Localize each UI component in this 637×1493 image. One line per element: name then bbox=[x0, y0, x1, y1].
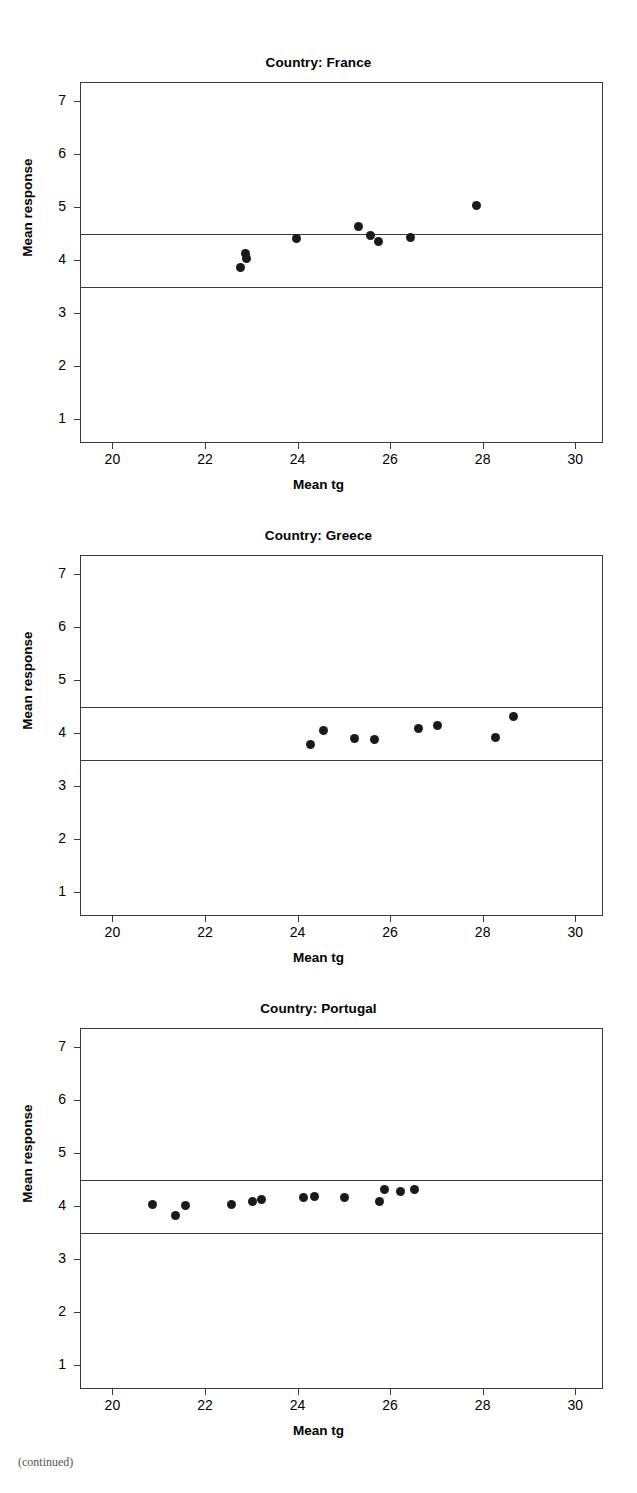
panel-title: Country: Greece bbox=[0, 528, 637, 543]
y-axis-tick-label: 1 bbox=[44, 884, 66, 898]
x-axis-tick bbox=[298, 443, 299, 449]
x-axis-tick bbox=[575, 1389, 576, 1395]
data-point bbox=[257, 1195, 266, 1204]
data-point bbox=[292, 234, 301, 243]
data-point bbox=[410, 1185, 419, 1194]
y-axis-tick-label: 7 bbox=[44, 93, 66, 107]
reference-line bbox=[81, 287, 602, 288]
y-axis-title: Mean response bbox=[20, 1064, 35, 1244]
x-axis-tick bbox=[483, 1389, 484, 1395]
reference-line bbox=[81, 760, 602, 761]
plot-frame bbox=[80, 82, 603, 443]
data-point bbox=[299, 1193, 308, 1202]
x-axis-tick bbox=[483, 916, 484, 922]
y-axis-tick-label: 4 bbox=[44, 252, 66, 266]
plot-frame bbox=[80, 1028, 603, 1389]
data-point bbox=[396, 1187, 405, 1196]
x-axis-tick bbox=[390, 916, 391, 922]
y-axis-title: Mean response bbox=[20, 118, 35, 298]
data-point bbox=[380, 1185, 389, 1194]
x-axis-tick-label: 26 bbox=[370, 452, 410, 466]
data-point bbox=[227, 1200, 236, 1209]
y-axis-tick-label: 3 bbox=[44, 778, 66, 792]
data-point bbox=[319, 726, 328, 735]
chart-panel: Country: PortugalMean responseMean tg123… bbox=[0, 946, 637, 1419]
plot-area bbox=[81, 83, 602, 442]
y-axis-tick-label: 4 bbox=[44, 725, 66, 739]
data-point bbox=[509, 712, 518, 721]
x-axis-tick-label: 24 bbox=[278, 925, 318, 939]
y-axis-tick-label: 2 bbox=[44, 358, 66, 372]
data-point bbox=[242, 254, 251, 263]
x-axis-tick-label: 28 bbox=[463, 1398, 503, 1412]
x-axis-tick bbox=[575, 916, 576, 922]
y-axis-tick-label: 6 bbox=[44, 146, 66, 160]
x-axis-tick-label: 22 bbox=[185, 925, 225, 939]
x-axis-tick-label: 30 bbox=[555, 452, 595, 466]
page-corner-mark: (continued) bbox=[18, 1455, 73, 1470]
x-axis-tick-label: 26 bbox=[370, 1398, 410, 1412]
y-axis-tick-label: 1 bbox=[44, 1357, 66, 1371]
y-axis-title: Mean response bbox=[20, 591, 35, 771]
x-axis-tick-label: 22 bbox=[185, 452, 225, 466]
data-point bbox=[491, 733, 500, 742]
data-point bbox=[370, 735, 379, 744]
y-axis-tick-label: 7 bbox=[44, 1039, 66, 1053]
plot-frame bbox=[80, 555, 603, 916]
data-point bbox=[340, 1193, 349, 1202]
x-axis-tick-label: 20 bbox=[92, 925, 132, 939]
x-axis-tick-label: 30 bbox=[555, 925, 595, 939]
chart-panel: Country: GreeceMean responseMean tg12345… bbox=[0, 473, 637, 946]
x-axis-tick-label: 24 bbox=[278, 452, 318, 466]
y-axis-tick-label: 5 bbox=[44, 672, 66, 686]
y-axis-tick-label: 3 bbox=[44, 305, 66, 319]
x-axis-tick bbox=[575, 443, 576, 449]
data-point bbox=[171, 1211, 180, 1220]
x-axis-tick bbox=[205, 916, 206, 922]
x-axis-tick-label: 28 bbox=[463, 452, 503, 466]
y-axis-tick-label: 1 bbox=[44, 411, 66, 425]
panel-title: Country: Portugal bbox=[0, 1001, 637, 1016]
x-axis-tick bbox=[298, 916, 299, 922]
panel-title: Country: France bbox=[0, 55, 637, 70]
x-axis-title: Mean tg bbox=[0, 1423, 637, 1438]
data-point bbox=[310, 1192, 319, 1201]
plot-area bbox=[81, 1029, 602, 1388]
reference-line bbox=[81, 234, 602, 235]
data-point bbox=[433, 721, 442, 730]
data-point bbox=[148, 1200, 157, 1209]
y-axis-tick-label: 6 bbox=[44, 619, 66, 633]
data-point bbox=[406, 233, 415, 242]
reference-line bbox=[81, 1180, 602, 1181]
data-point bbox=[414, 724, 423, 733]
chart-panel: Country: FranceMean responseMean tg12345… bbox=[0, 0, 637, 473]
x-axis-tick-label: 28 bbox=[463, 925, 503, 939]
y-axis-tick-label: 2 bbox=[44, 1304, 66, 1318]
x-axis-tick bbox=[205, 443, 206, 449]
y-axis-tick-label: 5 bbox=[44, 1145, 66, 1159]
y-axis-tick-label: 5 bbox=[44, 199, 66, 213]
data-point bbox=[350, 734, 359, 743]
x-axis-tick-label: 20 bbox=[92, 452, 132, 466]
data-point bbox=[375, 1197, 384, 1206]
reference-line bbox=[81, 707, 602, 708]
data-point bbox=[354, 222, 363, 231]
y-axis-tick-label: 4 bbox=[44, 1198, 66, 1212]
x-axis-tick bbox=[205, 1389, 206, 1395]
data-point bbox=[374, 237, 383, 246]
y-axis-tick-label: 2 bbox=[44, 831, 66, 845]
x-axis-tick bbox=[112, 1389, 113, 1395]
data-point bbox=[181, 1201, 190, 1210]
y-axis-tick-label: 7 bbox=[44, 566, 66, 580]
x-axis-tick-label: 30 bbox=[555, 1398, 595, 1412]
x-axis-tick bbox=[298, 1389, 299, 1395]
x-axis-tick-label: 26 bbox=[370, 925, 410, 939]
reference-line bbox=[81, 1233, 602, 1234]
x-axis-tick bbox=[483, 443, 484, 449]
data-point bbox=[236, 263, 245, 272]
x-axis-tick bbox=[390, 1389, 391, 1395]
y-axis-tick-label: 3 bbox=[44, 1251, 66, 1265]
plot-area bbox=[81, 556, 602, 915]
data-point bbox=[472, 201, 481, 210]
x-axis-tick bbox=[112, 443, 113, 449]
